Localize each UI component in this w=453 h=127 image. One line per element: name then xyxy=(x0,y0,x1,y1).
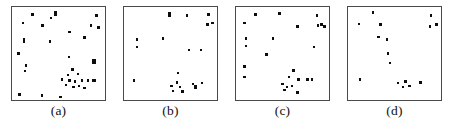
data-point xyxy=(68,79,70,81)
data-point xyxy=(168,12,171,17)
data-point xyxy=(200,49,202,51)
panel-c xyxy=(235,6,330,101)
data-point xyxy=(81,79,83,81)
plot-area-a xyxy=(11,6,106,101)
data-point xyxy=(323,25,325,27)
data-point xyxy=(23,38,26,43)
data-point xyxy=(41,94,43,96)
data-point xyxy=(286,86,288,88)
data-point xyxy=(265,53,267,55)
data-point xyxy=(181,90,183,92)
data-point xyxy=(201,82,203,84)
plot-area-d xyxy=(347,6,442,101)
panel-label-a: (a) xyxy=(11,104,106,118)
data-point xyxy=(306,78,308,80)
data-point xyxy=(71,68,73,70)
data-point xyxy=(278,12,281,15)
data-point xyxy=(177,72,179,74)
data-point xyxy=(61,78,63,80)
data-point xyxy=(50,17,52,19)
data-point xyxy=(291,85,293,87)
data-point xyxy=(65,84,67,86)
data-point xyxy=(404,80,406,82)
data-point xyxy=(92,59,97,64)
data-point xyxy=(430,14,432,16)
panel-label-c: (c) xyxy=(235,104,330,118)
data-point xyxy=(83,87,85,89)
data-point xyxy=(317,24,319,26)
data-point xyxy=(90,24,92,26)
data-point xyxy=(49,40,51,42)
data-point xyxy=(186,14,188,16)
data-point xyxy=(95,14,97,16)
data-point xyxy=(83,36,85,38)
panel-label-b: (b) xyxy=(123,104,218,118)
data-point xyxy=(211,22,213,24)
data-point xyxy=(272,37,274,39)
panel-d xyxy=(347,6,442,101)
data-point xyxy=(74,80,76,82)
data-point xyxy=(170,85,172,87)
data-point xyxy=(296,91,298,93)
data-point xyxy=(78,85,80,87)
data-point xyxy=(136,46,138,48)
data-point xyxy=(179,86,181,88)
data-point xyxy=(311,78,313,80)
data-point xyxy=(243,76,245,78)
data-point xyxy=(389,62,391,64)
data-point xyxy=(206,23,209,27)
panel-label-d: (d) xyxy=(347,104,442,118)
data-point xyxy=(136,38,138,40)
plot-area-c xyxy=(235,6,330,101)
data-point xyxy=(54,11,57,16)
data-point xyxy=(24,70,26,72)
data-point xyxy=(283,89,285,91)
data-point xyxy=(68,31,70,33)
data-point xyxy=(41,24,43,26)
data-point xyxy=(18,93,20,95)
data-point xyxy=(397,82,399,84)
data-point xyxy=(172,90,174,92)
figure-container: (a) (b) (c) (d) xyxy=(0,0,453,127)
data-point xyxy=(245,37,247,39)
data-point xyxy=(281,83,283,85)
data-point xyxy=(419,81,421,83)
data-point xyxy=(31,13,33,15)
data-point xyxy=(358,23,360,25)
panel-b xyxy=(123,6,218,101)
data-point xyxy=(97,26,99,28)
data-point xyxy=(379,23,381,25)
data-point xyxy=(92,79,96,81)
plot-area-b xyxy=(123,6,218,101)
data-point xyxy=(297,78,299,80)
data-point xyxy=(429,25,431,27)
data-point xyxy=(176,81,178,83)
data-point xyxy=(254,13,256,15)
data-point xyxy=(162,37,164,39)
data-point xyxy=(59,96,61,98)
data-point xyxy=(67,74,69,76)
data-point xyxy=(313,46,315,48)
data-point xyxy=(292,69,295,72)
data-point xyxy=(243,65,245,67)
data-point xyxy=(288,76,290,78)
data-point xyxy=(435,23,437,25)
data-point xyxy=(296,25,298,27)
data-point xyxy=(243,22,245,24)
data-point xyxy=(17,52,19,54)
data-point xyxy=(359,78,361,80)
data-point xyxy=(87,79,89,81)
data-point xyxy=(68,56,70,58)
data-point xyxy=(386,38,388,40)
data-point xyxy=(194,85,197,88)
data-point xyxy=(77,73,79,75)
data-point xyxy=(372,11,374,13)
data-point xyxy=(25,64,27,66)
data-point xyxy=(133,79,135,81)
data-point xyxy=(72,86,74,88)
panel-a xyxy=(11,6,106,101)
data-point xyxy=(207,13,209,15)
data-point xyxy=(316,14,318,16)
data-point xyxy=(188,49,190,51)
data-point xyxy=(387,52,389,54)
